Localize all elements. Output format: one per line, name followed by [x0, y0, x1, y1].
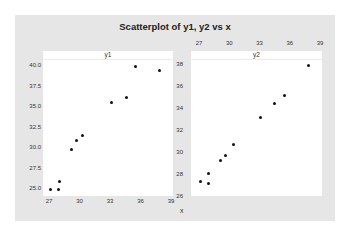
- x-tick-label: 30: [222, 40, 236, 46]
- y-tick-label: 34: [161, 105, 183, 111]
- data-point: [134, 65, 137, 68]
- panel-y1: y1: [43, 51, 173, 196]
- data-point: [125, 96, 128, 99]
- y-tick-label: 32.5: [19, 124, 41, 130]
- x-tick-label: 27: [192, 40, 206, 46]
- y-tick-label: 36: [161, 83, 183, 89]
- y-tick-label: 30.0: [19, 144, 41, 150]
- data-point: [219, 159, 222, 162]
- data-point: [49, 188, 52, 191]
- data-point: [70, 148, 73, 151]
- y-tick-label: 30: [161, 149, 183, 155]
- x-tick-label: 33: [103, 198, 117, 204]
- y-tick-label: 28: [161, 171, 183, 177]
- y-tick-label: 27.5: [19, 165, 41, 171]
- panel-strip-y2: y2: [191, 51, 322, 60]
- data-point: [58, 180, 61, 183]
- x-axis-label: x: [180, 207, 184, 214]
- data-point: [232, 143, 235, 146]
- x-tick-label: 30: [73, 198, 87, 204]
- y-tick-label: 26: [161, 193, 183, 199]
- x-tick-label: 36: [134, 198, 148, 204]
- y-tick-label: 37.5: [19, 83, 41, 89]
- panel-y2: y2: [191, 51, 322, 196]
- data-point: [224, 154, 227, 157]
- panel-strip-y1: y1: [43, 51, 173, 60]
- y-tick-label: 32: [161, 127, 183, 133]
- y-tick-label: 40.0: [19, 62, 41, 68]
- y-tick-label: 35.0: [19, 103, 41, 109]
- data-point: [57, 188, 60, 191]
- y-tick-label: 38: [161, 61, 183, 67]
- y-tick-label: 25.0: [19, 185, 41, 191]
- x-tick-label: 39: [313, 40, 327, 46]
- x-tick-label: 27: [42, 198, 56, 204]
- data-point: [199, 180, 202, 183]
- data-point: [207, 182, 210, 185]
- chart-title: Scatterplot of y1, y2 vs x: [15, 21, 335, 32]
- x-tick-label: 33: [253, 40, 267, 46]
- x-tick-label: 36: [283, 40, 297, 46]
